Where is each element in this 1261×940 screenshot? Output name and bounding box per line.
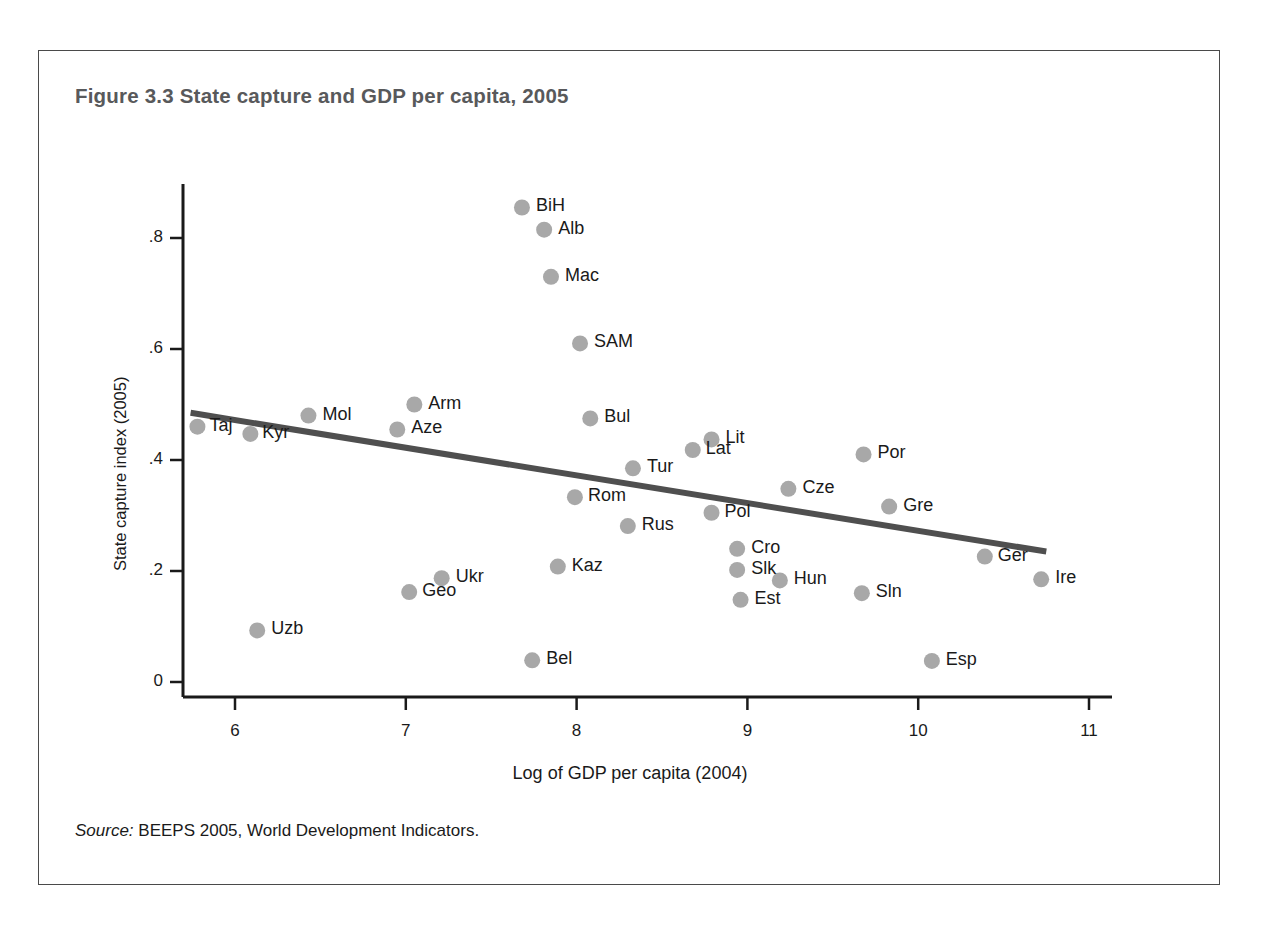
- data-point-rus: [620, 518, 636, 534]
- data-point-bel: [524, 652, 540, 668]
- x-axis-ticks: [235, 697, 1089, 710]
- data-point-geo: [401, 584, 417, 600]
- data-point-bih: [514, 199, 530, 215]
- x-tick-label-1: 7: [386, 721, 426, 741]
- data-point-gre: [881, 499, 897, 515]
- point-label-bul: Bul: [604, 406, 630, 427]
- data-point-esp: [924, 653, 940, 669]
- data-point-alb: [536, 222, 552, 238]
- source-label: Source:: [75, 821, 134, 840]
- point-label-cro: Cro: [751, 537, 780, 558]
- y-tick-label-3: .6: [123, 338, 163, 358]
- point-label-mol: Mol: [322, 404, 351, 425]
- point-label-aze: Aze: [411, 417, 442, 438]
- data-point-ger: [977, 549, 993, 565]
- point-label-ire: Ire: [1055, 567, 1076, 588]
- scatter-plot: BiHAlbMacSAMArmMolBulTajAzeKyrLitLatPorT…: [39, 51, 1221, 886]
- point-label-est: Est: [755, 588, 781, 609]
- point-label-sln: Sln: [876, 581, 902, 602]
- x-tick-label-3: 9: [727, 721, 767, 741]
- data-point-cze: [780, 481, 796, 497]
- data-point-slk: [729, 562, 745, 578]
- point-label-hun: Hun: [794, 568, 827, 589]
- point-label-ukr: Ukr: [456, 566, 484, 587]
- data-point-est: [733, 592, 749, 608]
- point-label-rom: Rom: [588, 485, 626, 506]
- data-point-uzb: [249, 622, 265, 638]
- point-label-slk: Slk: [751, 558, 776, 579]
- data-point-sam: [572, 335, 588, 351]
- data-point-lat: [685, 442, 701, 458]
- data-point-ire: [1033, 571, 1049, 587]
- trendline: [191, 413, 1047, 552]
- point-label-arm: Arm: [428, 393, 461, 414]
- data-point-pol: [704, 505, 720, 521]
- point-label-bel: Bel: [546, 648, 572, 669]
- data-point-rom: [567, 489, 583, 505]
- data-point-por: [856, 446, 872, 462]
- point-label-cze: Cze: [802, 477, 834, 498]
- data-point-kaz: [550, 559, 566, 575]
- x-tick-label-4: 10: [898, 721, 938, 741]
- y-tick-label-0: 0: [123, 671, 163, 691]
- y-tick-label-4: .8: [123, 227, 163, 247]
- y-axis-ticks: [170, 238, 183, 682]
- figure-frame: Figure 3.3 State capture and GDP per cap…: [38, 50, 1220, 885]
- x-tick-label-5: 11: [1069, 721, 1109, 741]
- data-point-mac: [543, 269, 559, 285]
- source-value: BEEPS 2005, World Development Indicators…: [134, 821, 480, 840]
- point-label-rus: Rus: [642, 514, 674, 535]
- plot-svg: [39, 51, 1221, 886]
- x-axis-title: Log of GDP per capita (2004): [39, 763, 1221, 784]
- x-tick-label-2: 8: [557, 721, 597, 741]
- point-label-tur: Tur: [647, 456, 673, 477]
- data-point-cro: [729, 541, 745, 557]
- data-point-tur: [625, 460, 641, 476]
- data-point-kyr: [242, 426, 258, 442]
- point-label-alb: Alb: [558, 218, 584, 239]
- point-label-kyr: Kyr: [262, 422, 289, 443]
- axis-lines: [183, 184, 1112, 697]
- data-point-sln: [854, 585, 870, 601]
- point-label-kaz: Kaz: [572, 555, 603, 576]
- y-axis-title: State capture index (2005): [111, 377, 130, 571]
- data-point-taj: [189, 419, 205, 435]
- data-point-aze: [389, 421, 405, 437]
- point-label-taj: Taj: [209, 415, 232, 436]
- point-label-lat: Lat: [706, 438, 731, 459]
- point-label-por: Por: [878, 442, 906, 463]
- point-label-sam: SAM: [594, 331, 633, 352]
- point-label-gre: Gre: [903, 495, 933, 516]
- point-label-uzb: Uzb: [271, 618, 303, 639]
- data-point-arm: [406, 397, 422, 413]
- point-label-bih: BiH: [536, 195, 565, 216]
- x-tick-label-0: 6: [215, 721, 255, 741]
- source-note: Source: BEEPS 2005, World Development In…: [75, 821, 479, 841]
- point-label-geo: Geo: [422, 580, 456, 601]
- point-label-esp: Esp: [946, 649, 977, 670]
- data-point-mol: [300, 408, 316, 424]
- point-label-mac: Mac: [565, 265, 599, 286]
- point-label-pol: Pol: [725, 501, 751, 522]
- data-point-bul: [582, 410, 598, 426]
- point-label-ger: Ger: [998, 545, 1028, 566]
